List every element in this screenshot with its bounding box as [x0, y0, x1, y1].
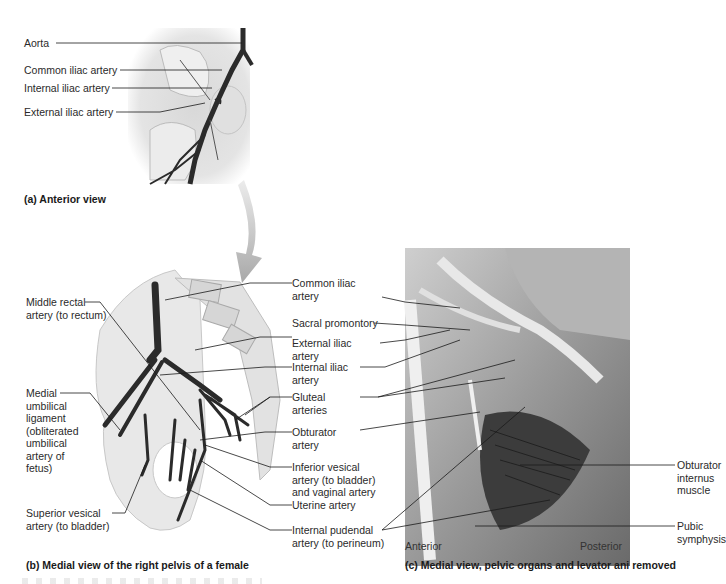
label-aorta: Aorta — [24, 37, 49, 50]
label-common-iliac-artery-b: Common iliac artery — [292, 277, 356, 302]
medial-pelvis-illustration — [96, 270, 280, 530]
caption-medial-view-pelvic-organs-removed: (c) Medial view, pelvic organs and levat… — [405, 559, 676, 571]
label-obturator-artery: Obturator artery — [292, 426, 336, 451]
label-internal-iliac-artery-b: Internal iliac artery — [292, 361, 348, 386]
curved-arrow-icon — [236, 180, 262, 283]
label-internal-pudendal-artery: Internal pudendal artery (to perineum) — [292, 524, 384, 549]
label-common-iliac-artery-a: Common iliac artery — [24, 64, 117, 77]
caption-anterior-view: (a) Anterior view — [24, 193, 106, 205]
label-inferior-vesical-artery: Inferior vesical artery (to bladder) and… — [292, 461, 375, 499]
label-gluteal-arteries: Gluteal arteries — [292, 391, 327, 416]
label-pubic-symphysis: Pubic symphysis — [677, 520, 726, 545]
label-sacral-promontory: Sacral promontory — [292, 317, 378, 330]
label-middle-rectal-artery: Middle rectal artery (to rectum) — [26, 296, 107, 321]
label-superior-vesical-artery: Superior vesical artery (to bladder) — [26, 507, 109, 532]
cadaver-photograph — [405, 248, 630, 566]
orientation-posterior: Posterior — [580, 540, 622, 552]
label-external-iliac-artery-a: External iliac artery — [24, 106, 113, 119]
label-medial-umbilical-ligament: Medial umbilical ligament (obliterated u… — [26, 387, 79, 475]
label-obturator-internus-muscle: Obturator internus muscle — [677, 459, 721, 497]
label-internal-iliac-artery-a: Internal iliac artery — [24, 82, 110, 95]
orientation-anterior: Anterior — [405, 540, 442, 552]
caption-medial-view-female-pelvis: (b) Medial view of the right pelvis of a… — [26, 559, 249, 571]
label-external-iliac-artery-b: External iliac artery — [292, 337, 352, 362]
cropped-figure-legend — [22, 578, 262, 584]
label-uterine-artery: Uterine artery — [292, 499, 356, 512]
